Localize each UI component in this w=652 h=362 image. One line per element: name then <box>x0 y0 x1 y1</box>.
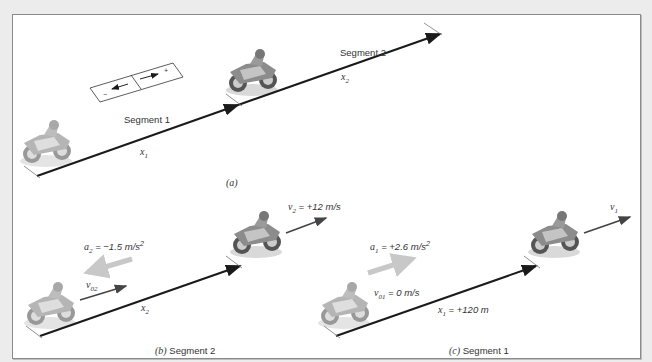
segment2-label: Segment 2 <box>340 47 386 58</box>
part-c: a1 = +2.6 m/s2 v01 = 0 m/s v1 x1 = +120 … <box>318 201 630 357</box>
minus-sign: − <box>103 91 107 98</box>
motorcycle-c-start-icon <box>318 282 370 329</box>
v2-arrow <box>286 218 326 233</box>
a1-label: a1 = +2.6 m/s2 <box>370 240 430 255</box>
mid-tick <box>226 94 242 106</box>
tick-b-end <box>226 256 242 268</box>
displacement-c-arrow <box>336 266 536 336</box>
x1-c-label: x1 = +120 m <box>437 304 489 318</box>
motorcycle-c-end-icon <box>528 211 580 258</box>
v1-label: v1 <box>610 201 618 215</box>
motorcycle-b-start-icon <box>24 282 76 329</box>
a2-label: a2 = −1.5 m/s2 <box>84 240 144 255</box>
plus-sign: + <box>164 67 168 74</box>
caption-a: (a) <box>226 177 238 189</box>
v1-arrow <box>584 217 630 233</box>
segment1-label: Segment 1 <box>124 114 170 125</box>
part-b: a2 = −1.5 m/s2 v02 v2 = +12 m/s x2 (b) S… <box>24 201 341 357</box>
accel-b-arrow <box>88 259 132 272</box>
x2-label: x2 <box>340 71 349 85</box>
v01-label: v01 = 0 m/s <box>374 287 420 301</box>
accel-c-arrow <box>368 259 412 273</box>
start-tick <box>24 166 40 178</box>
tick-c-end <box>524 256 540 268</box>
motorcycle-start-icon <box>20 120 72 167</box>
direction-sign-box: − + <box>90 63 183 102</box>
caption-b: (b) Segment 2 <box>155 345 215 357</box>
v02-label: v02 <box>86 279 98 293</box>
motorcycle-b-end-icon <box>230 211 282 258</box>
figure-diagram: − + Segment 1 Segment 2 x1 x2 (a) a2 = −… <box>0 0 652 362</box>
part-a: − + Segment 1 Segment 2 x1 x2 (a) <box>20 23 442 189</box>
caption-c: (c) Segment 1 <box>449 345 509 357</box>
end-tick <box>424 23 442 35</box>
v2-label: v2 = +12 m/s <box>288 201 341 215</box>
x1-label: x1 <box>139 146 148 160</box>
motorcycle-mid-icon <box>226 49 278 96</box>
x2-b-label: x2 <box>140 302 149 316</box>
